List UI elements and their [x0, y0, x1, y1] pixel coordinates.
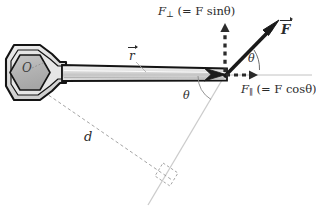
r-vector-symbol: r	[129, 50, 135, 62]
angle-label-lower: θ	[183, 90, 190, 101]
force-par-subscript: ∥	[249, 87, 253, 97]
force-par-expression: (= F cosθ)	[256, 82, 316, 96]
force-perp-expression: (= F sinθ)	[177, 4, 235, 18]
force-perp-symbol: F	[158, 4, 166, 18]
torque-wrench-diagram: F⊥ (= F sinθ) F∥ (= F cosθ) F r d θ θ O	[0, 0, 316, 208]
r-vector-label: r	[129, 50, 135, 62]
force-perp-subscript: ⊥	[166, 9, 174, 19]
force-perp-arrowhead	[220, 23, 229, 32]
diagram-canvas	[0, 0, 316, 208]
angle-label-upper: θ	[248, 53, 255, 64]
pivot-label: O	[22, 62, 32, 74]
force-par-symbol: F	[241, 82, 249, 96]
wrench-handle	[62, 65, 227, 81]
force-vector-symbol: F	[281, 23, 290, 36]
force-par-arrowhead	[249, 71, 258, 80]
force-perp-label: F⊥ (= F sinθ)	[158, 6, 235, 19]
force-vector-label: F	[281, 23, 290, 36]
moment-arm-line	[44, 92, 172, 180]
force-par-label: F∥ (= F cosθ)	[241, 84, 316, 97]
moment-arm-label: d	[84, 130, 92, 143]
